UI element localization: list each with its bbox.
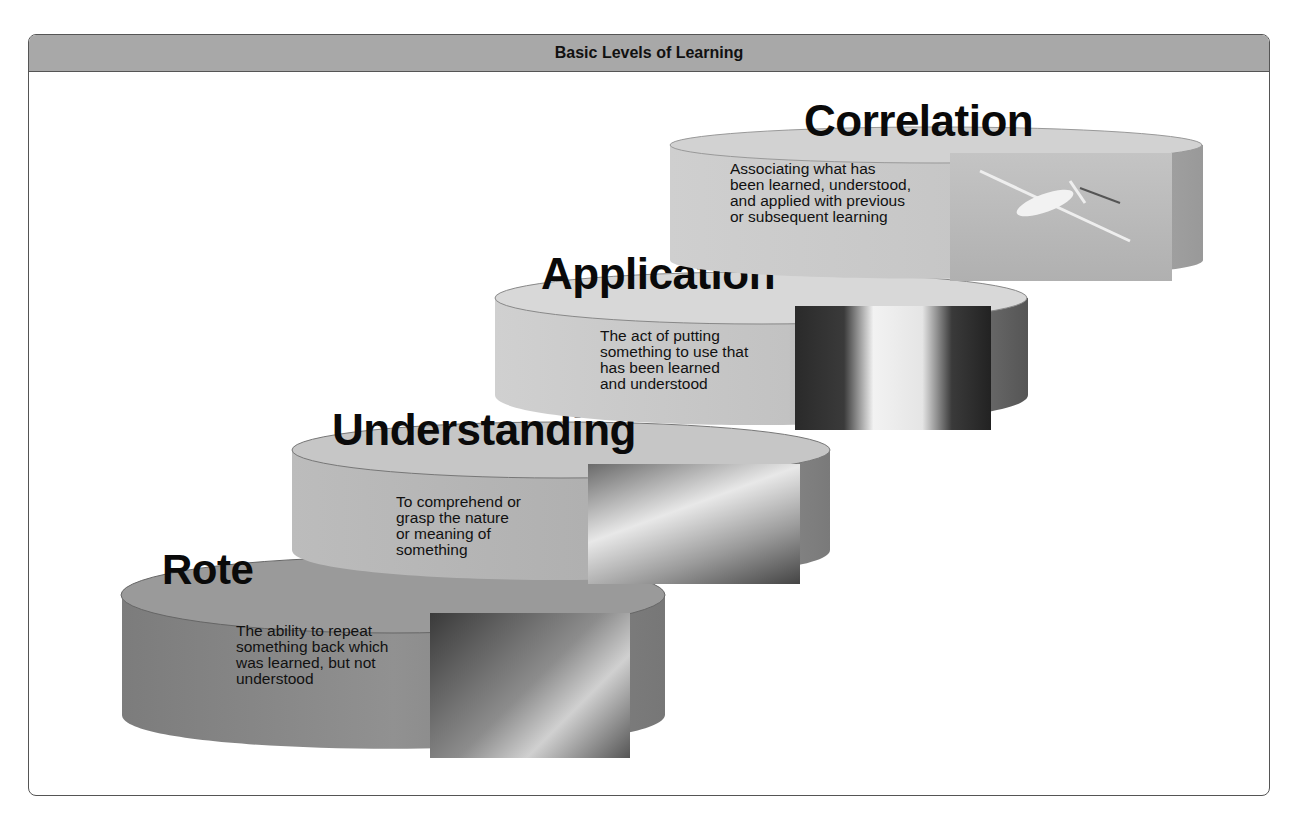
level-correlation: Correlation Associating what has been le… — [668, 125, 1208, 285]
jet-in-flight-photo — [950, 153, 1172, 281]
level-application: Application The act of putting something… — [493, 270, 1033, 435]
diagram-header: Basic Levels of Learning — [29, 35, 1269, 72]
pilots-in-cockpit-photo — [795, 306, 991, 430]
level-title-rote: Rote — [162, 549, 253, 591]
level-title-correlation: Correlation — [804, 99, 1033, 143]
diagram-title: Basic Levels of Learning — [555, 44, 744, 62]
instructor-student-by-aircraft-photo — [588, 464, 800, 584]
jet-icon — [950, 153, 1172, 281]
level-description-rote: The ability to repeat something back whi… — [236, 623, 389, 687]
elderly-man-reading-photo — [430, 613, 630, 758]
level-description-correlation: Associating what has been learned, under… — [730, 161, 911, 225]
level-description-application: The act of putting something to use that… — [600, 328, 748, 392]
level-description-understanding: To comprehend or grasp the nature or mea… — [396, 494, 521, 558]
level-understanding: Understanding To comprehend or grasp the… — [290, 420, 835, 590]
